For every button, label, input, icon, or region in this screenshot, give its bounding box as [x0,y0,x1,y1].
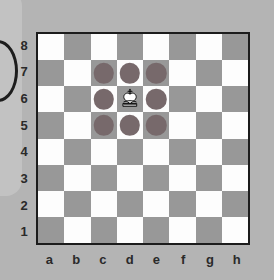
file-label-d: d [116,247,143,271]
board-square-c1[interactable] [91,217,117,243]
board-square-b8[interactable] [64,34,90,60]
board-square-a8[interactable] [38,34,64,60]
board-square-a1[interactable] [38,217,64,243]
board-square-g5[interactable] [196,112,222,138]
rank-labels: 87654321 [14,32,34,245]
board-square-h6[interactable] [222,86,248,112]
board-square-h4[interactable] [222,139,248,165]
rank-label-6: 6 [14,85,34,112]
rank-label-1: 1 [14,218,34,245]
board-square-a5[interactable] [38,112,64,138]
board-square-c8[interactable] [91,34,117,60]
board-square-g3[interactable] [196,165,222,191]
board-square-f7[interactable] [169,60,195,86]
chessboard[interactable] [36,32,250,245]
board-square-h5[interactable] [222,112,248,138]
white-king-piece[interactable] [117,86,142,111]
file-label-c: c [90,247,117,271]
board-square-d5[interactable] [117,112,143,138]
board-square-h7[interactable] [222,60,248,86]
rank-label-4: 4 [14,139,34,166]
file-label-b: b [63,247,90,271]
board-square-b7[interactable] [64,60,90,86]
rank-label-8: 8 [14,32,34,59]
board-square-d1[interactable] [117,217,143,243]
board-square-b1[interactable] [64,217,90,243]
board-square-d7[interactable] [117,60,143,86]
board-square-c7[interactable] [91,60,117,86]
rank-label-7: 7 [14,59,34,86]
board-square-c4[interactable] [91,139,117,165]
file-label-h: h [223,247,250,271]
legal-move-dot-e5[interactable] [146,115,166,135]
board-square-h8[interactable] [222,34,248,60]
legal-move-dot-e7[interactable] [146,63,166,83]
board-square-e4[interactable] [143,139,169,165]
board-square-h2[interactable] [222,191,248,217]
legal-move-dot-c7[interactable] [93,63,113,83]
board-square-g1[interactable] [196,217,222,243]
board-square-h3[interactable] [222,165,248,191]
board-square-d8[interactable] [117,34,143,60]
board-square-d2[interactable] [117,191,143,217]
board-square-g6[interactable] [196,86,222,112]
board-square-a6[interactable] [38,86,64,112]
board-square-e6[interactable] [143,86,169,112]
board-square-f4[interactable] [169,139,195,165]
file-label-a: a [36,247,63,271]
board-square-a3[interactable] [38,165,64,191]
board-square-g2[interactable] [196,191,222,217]
rank-label-3: 3 [14,165,34,192]
legal-move-dot-e6[interactable] [146,89,166,109]
board-square-f1[interactable] [169,217,195,243]
board-square-c6[interactable] [91,86,117,112]
board-square-f6[interactable] [169,86,195,112]
board-square-e8[interactable] [143,34,169,60]
board-square-f2[interactable] [169,191,195,217]
legal-move-dot-d5[interactable] [120,115,140,135]
board-square-e7[interactable] [143,60,169,86]
rank-label-2: 2 [14,192,34,219]
board-square-g4[interactable] [196,139,222,165]
board-square-h1[interactable] [222,217,248,243]
board-square-c3[interactable] [91,165,117,191]
legal-move-dot-c6[interactable] [93,89,113,109]
board-square-a4[interactable] [38,139,64,165]
board-square-a2[interactable] [38,191,64,217]
file-label-e: e [143,247,170,271]
board-square-g7[interactable] [196,60,222,86]
board-square-c2[interactable] [91,191,117,217]
board-square-e2[interactable] [143,191,169,217]
board-square-b5[interactable] [64,112,90,138]
board-square-a7[interactable] [38,60,64,86]
board-square-f5[interactable] [169,112,195,138]
rank-label-5: 5 [14,112,34,139]
file-labels: abcdefgh [36,247,250,271]
board-square-d6[interactable] [117,86,143,112]
board-square-d3[interactable] [117,165,143,191]
board-square-f8[interactable] [169,34,195,60]
legal-move-dot-d7[interactable] [120,63,140,83]
chessboard-area [36,32,250,245]
file-label-g: g [197,247,224,271]
board-square-e5[interactable] [143,112,169,138]
board-square-e3[interactable] [143,165,169,191]
legal-move-dot-c5[interactable] [93,115,113,135]
board-square-b3[interactable] [64,165,90,191]
board-square-b4[interactable] [64,139,90,165]
board-square-f3[interactable] [169,165,195,191]
board-square-b6[interactable] [64,86,90,112]
board-square-b2[interactable] [64,191,90,217]
board-square-g8[interactable] [196,34,222,60]
board-square-d4[interactable] [117,139,143,165]
board-square-c5[interactable] [91,112,117,138]
board-square-e1[interactable] [143,217,169,243]
file-label-f: f [170,247,197,271]
